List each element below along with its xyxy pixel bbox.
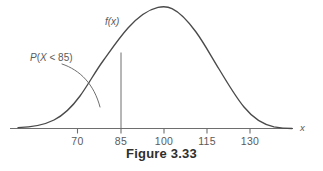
x-axis-ticks (78, 129, 251, 134)
x-axis-label: x (299, 122, 306, 133)
callout-leader-line (62, 64, 100, 107)
normal-curve (18, 7, 292, 129)
figure-caption: Figure 3.33 (0, 146, 323, 161)
curve-function-label: f(x) (105, 16, 119, 27)
figure-container: f(x) P(X < 85) P(X < 85) x 70 85 100 115… (0, 0, 323, 171)
